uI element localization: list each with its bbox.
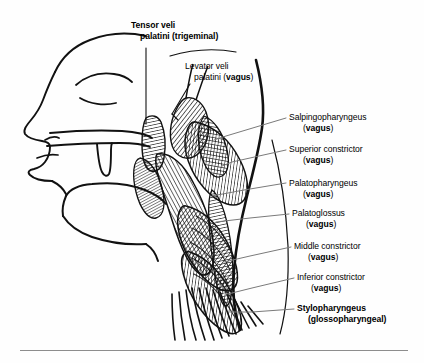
- label-line-2: palatini (vagus): [185, 72, 253, 83]
- label-line-2: (vagus): [297, 283, 365, 294]
- soft-palate-uvula: [97, 143, 112, 176]
- label-paren-open: palatini (: [194, 72, 226, 82]
- label-line-1: Palatoglossus: [292, 208, 345, 218]
- nerve-name: vagus: [306, 155, 331, 165]
- label-line-1: Salpingopharyngeus: [289, 112, 366, 122]
- label-line-1: Tensor veli: [131, 20, 175, 30]
- neck-contour-line: [272, 140, 288, 334]
- label-salpingopharyngeus: Salpingopharyngeus (vagus): [289, 112, 366, 133]
- label-line-2: (vagus): [289, 123, 366, 134]
- label-paren-close: ): [338, 283, 341, 293]
- label-line-2: (vagus): [294, 252, 360, 263]
- label-stylopharyngeus: Stylopharyngeus (glossopharyngeal): [297, 303, 386, 324]
- label-inferior-constrictor: Inferior constrictor (vagus): [297, 272, 365, 293]
- nerve-name: glossopharyngeal: [311, 314, 384, 324]
- label-paren-close: ): [333, 219, 336, 229]
- label-line-1: Superior constrictor: [289, 144, 363, 154]
- label-paren-close: ): [330, 155, 333, 165]
- closed-eye: [80, 98, 116, 104]
- head-profile-outline: [24, 34, 146, 181]
- nerve-name: vagus: [309, 219, 334, 229]
- label-paren-close: ): [330, 189, 333, 199]
- anatomy-figure: Tensor veli palatini (trigeminal) Levato…: [0, 0, 424, 363]
- label-paren-close: ): [384, 314, 387, 324]
- nerve-name: vagus: [314, 283, 339, 293]
- label-superior-constrictor: Superior constrictor (vagus): [289, 144, 363, 165]
- label-line-2: palatini (trigeminal): [131, 31, 218, 42]
- label-levator-veli-palatini: Levator veli palatini (vagus): [185, 61, 253, 82]
- label-line-1: Palatopharyngeus: [289, 178, 357, 188]
- label-line-1: Stylopharyngeus: [297, 303, 366, 313]
- skull-base-line: [170, 50, 236, 56]
- label-line-2: (glossopharyngeal): [297, 314, 386, 325]
- label-line-2: (vagus): [292, 219, 345, 230]
- nerve-name: vagus: [306, 189, 331, 199]
- label-middle-constrictor: Middle constrictor (vagus): [294, 241, 360, 262]
- label-paren-close: ): [335, 252, 338, 262]
- label-palatoglossus: Palatoglossus (vagus): [292, 208, 345, 229]
- label-tensor-veli-palatini: Tensor veli palatini (trigeminal): [131, 20, 218, 41]
- nose: [45, 137, 59, 140]
- nerve-name: vagus: [306, 123, 331, 133]
- label-palatopharyngeus: Palatopharyngeus (vagus): [289, 178, 357, 199]
- nerve-name: vagus: [311, 252, 336, 262]
- hard-palate: [47, 131, 152, 147]
- label-line-2: (vagus): [289, 155, 363, 166]
- label-line-1: Inferior constrictor: [297, 272, 365, 282]
- label-paren-close: ): [330, 123, 333, 133]
- label-paren-close: ): [251, 72, 254, 82]
- nerve-name: vagus: [226, 72, 251, 82]
- label-line-1: Middle constrictor: [294, 241, 360, 251]
- label-line-2: (vagus): [289, 189, 357, 200]
- label-line-1: Levator veli: [185, 61, 228, 71]
- eyebrow: [76, 73, 132, 85]
